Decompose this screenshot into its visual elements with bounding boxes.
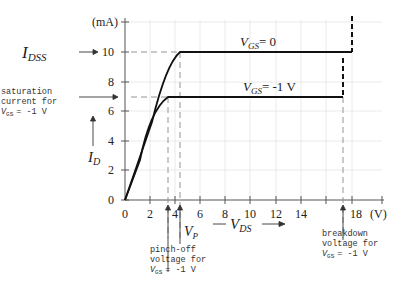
- svg-text:8: 8: [222, 207, 228, 221]
- svg-text:current for: current for: [1, 97, 57, 107]
- svg-text:6: 6: [108, 104, 114, 118]
- svg-text:8: 8: [108, 75, 114, 89]
- jfet-characteristic-diagram: 0 2 4 6 8 10 (mA) 0 2 4 6 8 10 12 14 18 …: [0, 0, 408, 292]
- svg-text:10: 10: [244, 207, 256, 221]
- svg-text:2: 2: [147, 207, 153, 221]
- svg-text:voltage for: voltage for: [150, 255, 206, 265]
- svg-text:breakdown: breakdown: [322, 229, 368, 239]
- x-tick-labels: 0 2 4 6 8 10 12 14 18: [122, 207, 362, 221]
- saturation-annotation: saturation current for VGS= -1 V: [1, 87, 57, 118]
- arrows: [79, 50, 346, 273]
- svg-text:VGS= -1 V: VGS= -1 V: [322, 249, 369, 260]
- svg-text:VGS= -1 V: VGS= -1 V: [150, 265, 197, 276]
- y-unit-label: (mA): [92, 15, 118, 29]
- svg-text:pinch-off: pinch-off: [150, 245, 196, 255]
- idss-label: IDSS: [21, 43, 47, 63]
- curve-vgs-minus1: [125, 97, 343, 200]
- breakdown-annotation: breakdown voltage for VGS= -1 V: [322, 229, 378, 260]
- svg-text:4: 4: [172, 207, 178, 221]
- svg-text:VGS= -1 V: VGS= -1 V: [1, 107, 48, 118]
- svg-text:0: 0: [108, 193, 114, 207]
- svg-text:10: 10: [102, 45, 114, 59]
- curve-label-vgs-minus1: VGS= -1 V: [243, 79, 296, 96]
- id-axis-label: ID: [87, 149, 101, 167]
- svg-text:18: 18: [350, 207, 362, 221]
- svg-text:12: 12: [270, 207, 282, 221]
- svg-text:4: 4: [108, 134, 114, 148]
- svg-text:saturation: saturation: [1, 87, 52, 97]
- svg-text:0: 0: [122, 207, 128, 221]
- pinchoff-annotation: pinch-off voltage for VGS= -1 V: [150, 245, 206, 276]
- vp-label: VP: [184, 224, 199, 241]
- y-tick-labels: 0 2 4 6 8 10: [102, 45, 114, 207]
- svg-text:voltage for: voltage for: [322, 239, 378, 249]
- guide-lines: [131, 52, 343, 238]
- svg-text:14: 14: [295, 207, 307, 221]
- curve-vgs-0: [125, 52, 352, 200]
- x-unit-label: (V): [370, 207, 387, 221]
- curve-label-vgs-0: VGS= 0: [240, 34, 276, 51]
- svg-text:6: 6: [197, 207, 203, 221]
- svg-text:2: 2: [108, 163, 114, 177]
